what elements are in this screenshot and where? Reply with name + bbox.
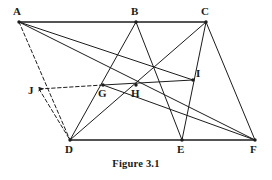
segment-GJ: [39, 85, 103, 89]
vertex-label-A: A: [13, 6, 21, 17]
vertex-label-F: F: [250, 144, 257, 155]
vertex-marker-E: [180, 138, 183, 141]
segment-AF: [19, 22, 255, 140]
segment-CF: [206, 22, 255, 140]
vertex-marker-C: [204, 20, 207, 23]
vertex-label-E: E: [177, 144, 184, 155]
segment-AI: [19, 22, 193, 80]
segment-AD: [19, 22, 70, 140]
vertex-marker-I: [191, 78, 194, 81]
segment-GI: [103, 80, 193, 85]
vertex-marker-A: [17, 20, 20, 23]
figure-caption: Figure 3.1: [0, 158, 272, 169]
vertex-label-B: B: [131, 6, 138, 17]
figure-container: ABCDEFGHIJ Figure 3.1: [0, 0, 272, 180]
vertex-label-C: C: [201, 6, 209, 17]
vertex-marker-D: [68, 138, 71, 141]
vertex-label-I: I: [196, 68, 200, 79]
segments-group: [19, 22, 255, 140]
vertex-marker-F: [253, 138, 256, 141]
segment-JD: [39, 89, 70, 140]
vertex-label-H: H: [131, 88, 140, 99]
vertex-marker-B: [134, 20, 137, 23]
vertex-label-G: G: [98, 88, 107, 99]
vertex-label-J: J: [28, 85, 34, 96]
vertex-label-D: D: [65, 144, 73, 155]
segment-BD: [70, 22, 136, 140]
